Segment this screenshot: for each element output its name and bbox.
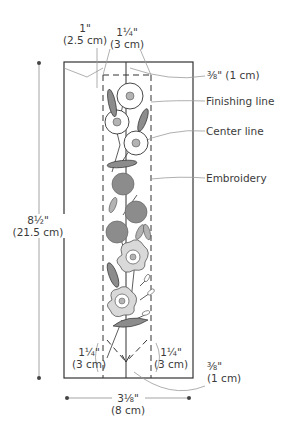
height-cm: (21.5 cm) (8, 226, 68, 238)
bottom-seam-inch: ⅜" (207, 360, 241, 372)
top-right-seam-label: ⅜" (1 cm) (207, 69, 260, 81)
top-center-label: 1¼" (3 cm) (104, 26, 150, 50)
top-left-seam-cm: (2.5 cm) (62, 34, 108, 46)
top-fold-lines (64, 49, 151, 77)
bottom-seam-cm: (1 cm) (207, 372, 241, 384)
top-left-seam-label: 1" (2.5 cm) (62, 22, 108, 46)
bottom-left-cm: (3 cm) (69, 358, 109, 370)
bottom-right-cm: (3 cm) (149, 358, 193, 370)
width-cm: (8 cm) (108, 404, 148, 416)
bottom-left-inch: 1¼" (69, 346, 109, 358)
bottom-right-label: 1¼" (3 cm) (149, 346, 193, 370)
height-inch: 8½" (8, 214, 68, 226)
top-center-inch: 1¼" (104, 26, 150, 38)
center-line-callout: Center line (206, 125, 264, 137)
embroidery (105, 83, 156, 358)
finishing-line-callout: Finishing line (206, 95, 274, 107)
height-label: 8½" (21.5 cm) (8, 214, 68, 238)
width-inch: 3⅛" (108, 392, 148, 404)
top-left-seam-inch: 1" (62, 22, 108, 34)
bottom-left-label: 1¼" (3 cm) (69, 346, 109, 370)
width-label: 3⅛" (8 cm) (108, 392, 148, 416)
bottom-right-inch: 1¼" (149, 346, 193, 358)
embroidery-callout: Embroidery (206, 172, 267, 184)
bottom-seam-label: ⅜" (1 cm) (207, 360, 241, 384)
top-center-cm: (3 cm) (104, 38, 150, 50)
